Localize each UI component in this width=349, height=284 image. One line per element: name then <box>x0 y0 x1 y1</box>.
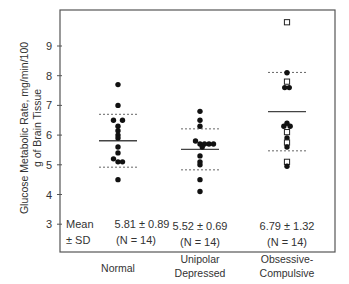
data-point <box>115 159 120 164</box>
stats-row-label-sd: ± SD <box>66 234 90 246</box>
data-point <box>197 109 202 114</box>
y-tick-label: 3 <box>46 218 52 230</box>
data-point <box>287 123 292 128</box>
stat-ocd-n: (N = 14) <box>267 236 307 248</box>
category-label-normal: Normal <box>101 262 135 274</box>
data-point <box>115 103 120 108</box>
y-tick-label: 6 <box>46 129 52 141</box>
y-tick-label: 7 <box>46 99 52 111</box>
category-label-unipolar-line-1: Unipolar <box>180 253 220 265</box>
data-point <box>111 118 116 123</box>
data-point <box>197 153 202 158</box>
data-point <box>115 135 120 140</box>
category-label-ocd-line-1: Obsessive- <box>261 253 314 265</box>
stats-row-label-mean: Mean <box>66 218 94 230</box>
scatter-chart: Glucose Metabolic Rate, mg/min/100 g of … <box>0 0 349 284</box>
data-point <box>115 150 120 155</box>
stat-unipolar-n: (N = 14) <box>180 236 220 248</box>
data-point <box>197 189 202 194</box>
y-tick-label: 4 <box>46 189 52 201</box>
data-point <box>111 156 116 161</box>
data-point <box>197 162 202 167</box>
data-point <box>120 118 125 123</box>
data-point <box>287 85 292 90</box>
y-tick-label: 8 <box>46 70 52 82</box>
data-point <box>193 138 198 143</box>
plot-frame <box>60 10 335 252</box>
stat-normal-mean-sd: 5.81 ± 0.89 <box>115 218 170 230</box>
category-label-unipolar-line-2: Depressed <box>175 267 226 279</box>
stat-normal-n: (N = 14) <box>116 234 156 246</box>
y-axis-label-line-2: g of Brain Tissue <box>31 89 43 167</box>
series-normal <box>99 82 137 182</box>
data-point-open <box>284 130 289 135</box>
data-point-open <box>284 20 289 25</box>
data-point <box>115 144 120 149</box>
y-tick-label: 5 <box>46 159 52 171</box>
data-point <box>281 123 286 128</box>
series-obsessive-compulsive <box>268 20 306 169</box>
series-unipolar-depressed <box>181 109 219 195</box>
data-marks <box>99 20 306 195</box>
data-point <box>211 141 216 146</box>
data-point <box>197 118 202 123</box>
category-label-ocd-line-2: Compulsive <box>260 267 315 279</box>
y-tick-label: 9 <box>46 40 52 52</box>
data-point <box>197 177 202 182</box>
y-axis-label-line-1: Glucose Metabolic Rate, mg/min/100 <box>18 42 30 214</box>
stat-unipolar-mean-sd: 5.52 ± 0.69 <box>173 220 228 232</box>
data-point <box>115 82 120 87</box>
data-point <box>284 144 289 149</box>
data-point-open <box>284 79 289 84</box>
stat-ocd-mean-sd: 6.79 ± 1.32 <box>260 220 315 232</box>
data-point <box>200 144 205 149</box>
data-point <box>284 164 289 169</box>
data-point <box>115 177 120 182</box>
data-point <box>197 123 202 128</box>
data-point <box>284 70 289 75</box>
